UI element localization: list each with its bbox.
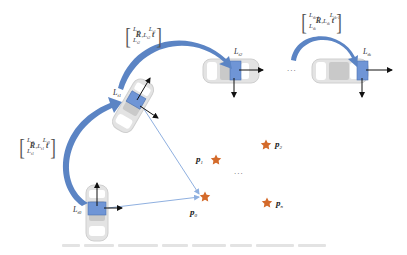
car-t0 (86, 183, 122, 241)
frame-label-sub: t1 (117, 93, 121, 98)
frame-label-sub: tk (367, 52, 371, 57)
star-pn (262, 198, 272, 208)
transform-matrix-t1-t2: [ Lt1 Lt1 Lt2 R*Lt2 t ] (124, 24, 163, 48)
frame-label-t2: Lt2 (234, 48, 242, 57)
point-label-p1: p1 (196, 155, 203, 165)
bracket-left: [ (301, 10, 307, 34)
matrix-mid: R*Lt2 t (136, 31, 154, 42)
transform-matrix-tk-1-tk: [ Ltk-1 Ltk-1 Ltk R*Ltk t ] (300, 10, 343, 34)
matrix-mid: R*Lt1 t (30, 142, 48, 153)
frame-label-tk: Ltk (363, 48, 371, 57)
star-p2 (261, 140, 271, 150)
matrix-mid: R*Ltk t (316, 17, 334, 28)
ellipsis-poses: ... (287, 64, 297, 73)
diagram-canvas (0, 0, 407, 255)
caption-strip (62, 244, 352, 248)
frame-label-t0: Lt0 (73, 206, 81, 215)
frame-label-sub: t2 (238, 52, 242, 57)
car-tk (312, 59, 392, 97)
car-t2 (203, 59, 263, 97)
transform-matrix-t0-t1: [ Lt0 Lt0 Lt1 R*Lt1 t ] (18, 135, 57, 159)
point-label-p2: p2 (275, 140, 282, 150)
bracket-left: [ (19, 135, 25, 159)
star-p0 (200, 192, 210, 202)
bracket-right: ] (336, 10, 342, 34)
frame-label-t1: Lt1 (113, 89, 121, 98)
sight-line-t1-p0 (142, 106, 199, 194)
bracket-left: [ (125, 24, 131, 48)
frame-label-sub: t0 (77, 210, 81, 215)
ellipsis-points: ... (234, 167, 244, 176)
point-label-p0: p0 (190, 208, 197, 218)
sight-line-t0-p0 (108, 197, 199, 208)
bracket-right: ] (50, 135, 56, 159)
point-label-pn: pn (276, 199, 283, 209)
star-p1 (211, 155, 221, 165)
bracket-right: ] (156, 24, 162, 48)
